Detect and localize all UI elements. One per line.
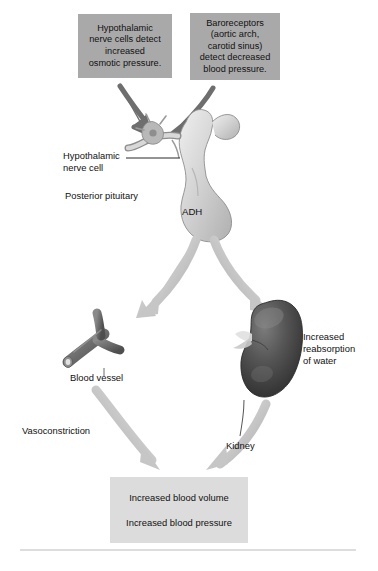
label-kidney: Kidney: [226, 440, 255, 452]
label-vasoconstriction: Vasoconstriction: [22, 425, 90, 437]
leader-line-kidney: [240, 400, 244, 436]
arrow-vessel-to-outcome-icon: [96, 390, 160, 470]
label-kidney-line-1: Kidney: [226, 440, 255, 452]
stimulus-box-baroreceptors: Baroreceptors (aortic arch, carotid sinu…: [190, 13, 280, 80]
outcome-box: Increased blood volume Increased blood p…: [110, 477, 248, 543]
stimulus-hypothalamic-line-4: osmotic pressure.: [89, 58, 162, 70]
arrow-to-vessel-icon: [136, 240, 196, 318]
label-hypothalamic-nerve-cell-line-2: nerve cell: [63, 162, 120, 174]
arrow-kidney-to-outcome-icon: [206, 404, 266, 470]
label-posterior-pituitary-line-1: Posterior pituitary: [65, 190, 138, 202]
label-increased-reabsorption: Increased reabsorption of water: [303, 331, 355, 366]
label-hypothalamic-nerve-cell-line-1: Hypothalamic: [63, 150, 120, 162]
label-posterior-pituitary: Posterior pituitary: [65, 190, 138, 202]
kidney-organ-icon: [233, 300, 303, 397]
stimulus-baroreceptors-line-2: (aortic arch,: [211, 29, 260, 41]
outcome-line-2: Increased blood pressure: [126, 510, 232, 535]
outcome-line-1: Increased blood volume: [129, 485, 229, 510]
stimulus-baroreceptors-line-3: carotid sinus): [208, 41, 263, 53]
label-increased-reabsorption-line-2: reabsorption: [303, 343, 355, 355]
stimulus-baroreceptors-line-4: detect decreased: [200, 52, 271, 64]
blood-vessel-icon: [63, 313, 120, 367]
diagram-page: Hypothalamic nerve cells detect increase…: [0, 0, 378, 571]
label-hypothalamic-nerve-cell: Hypothalamic nerve cell: [63, 150, 120, 174]
arrow-to-kidney-icon: [214, 240, 272, 314]
label-adh: ADH: [182, 206, 202, 218]
stimulus-hypothalamic-line-2: nerve cells detect: [89, 34, 161, 46]
label-increased-reabsorption-line-3: of water: [303, 355, 355, 367]
stimulus-hypothalamic-line-3: increased: [105, 46, 145, 58]
label-increased-reabsorption-line-1: Increased: [303, 331, 355, 343]
stimulus-box-hypothalamic: Hypothalamic nerve cells detect increase…: [78, 14, 172, 78]
stimulus-hypothalamic-line-1: Hypothalamic: [97, 23, 153, 35]
stimulus-baroreceptors-line-1: Baroreceptors: [206, 18, 264, 30]
pituitary-gland-icon: [128, 110, 240, 242]
label-blood-vessel-line-1: Blood vessel: [70, 372, 123, 384]
label-vasoconstriction-line-1: Vasoconstriction: [22, 425, 90, 437]
label-adh-line-1: ADH: [182, 206, 202, 218]
label-blood-vessel: Blood vessel: [70, 372, 123, 384]
stimulus-baroreceptors-line-5: blood pressure.: [203, 64, 266, 76]
